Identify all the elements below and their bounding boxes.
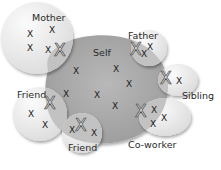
coworker-big-mark: X bbox=[135, 101, 147, 121]
friend2-mark: X bbox=[91, 128, 97, 138]
mother-mark: X bbox=[27, 43, 33, 53]
label-self: Self bbox=[93, 47, 112, 58]
network-diagram: Self X X X X X X X Mother X X X X X Fath… bbox=[0, 0, 221, 170]
coworker-mark: X bbox=[161, 113, 167, 123]
friend2-big-mark: X bbox=[75, 115, 87, 135]
coworker-mark: X bbox=[151, 105, 157, 115]
label-coworker: Co-worker bbox=[128, 139, 177, 150]
mother-mark: X bbox=[27, 29, 33, 39]
label-friend-1: Friend bbox=[17, 89, 46, 100]
friend1-big-mark: X bbox=[44, 93, 56, 113]
label-mother: Mother bbox=[32, 12, 66, 23]
coworker-mark: X bbox=[150, 119, 156, 129]
sibling-big-mark: X bbox=[160, 68, 172, 88]
father-mark: X bbox=[147, 42, 153, 52]
self-mark: X bbox=[94, 90, 100, 100]
friend1-mark: X bbox=[42, 120, 48, 130]
self-mark: X bbox=[112, 101, 118, 111]
self-mark: X bbox=[126, 79, 132, 89]
father-mark: X bbox=[141, 49, 147, 59]
label-sibling: Sibling bbox=[182, 90, 214, 101]
self-mark: X bbox=[113, 64, 119, 74]
mother-big-mark: X bbox=[54, 40, 66, 60]
self-mark: X bbox=[73, 66, 79, 76]
label-friend-2: Friend bbox=[68, 142, 97, 153]
self-mark: X bbox=[63, 89, 69, 99]
mother-mark: X bbox=[45, 45, 51, 55]
friend1-mark: X bbox=[28, 109, 34, 119]
mother-mark: X bbox=[49, 25, 55, 35]
sibling-mark: X bbox=[176, 76, 182, 86]
